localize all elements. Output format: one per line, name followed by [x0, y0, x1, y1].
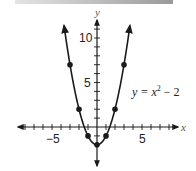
- x-tick-label-5: 5: [139, 132, 146, 146]
- data-point: [76, 106, 82, 112]
- equation-label: y = x2 − 2: [131, 84, 180, 99]
- data-point: [85, 133, 91, 139]
- parabola-graph: y x 10 5 −5 5 y = x2 − 2: [0, 0, 196, 171]
- y-tick-label-10: 10: [79, 31, 93, 45]
- y-axis-label: y: [94, 6, 100, 18]
- y-tick-label-5: 5: [84, 76, 91, 90]
- data-point: [94, 142, 100, 148]
- data-point: [103, 133, 109, 139]
- equation-rhs: − 2: [161, 85, 180, 99]
- data-point: [67, 62, 73, 68]
- equation-lhs: y = x: [131, 85, 157, 99]
- x-axis-label: x: [180, 121, 186, 133]
- x-tick-label-neg5: −5: [46, 132, 60, 146]
- data-point: [112, 106, 118, 112]
- data-point: [121, 62, 127, 68]
